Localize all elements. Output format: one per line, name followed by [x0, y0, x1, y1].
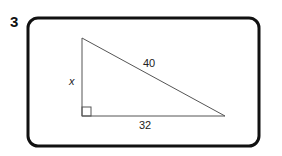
right-angle-marker — [82, 107, 91, 116]
diagram-canvas — [0, 0, 282, 156]
label-vertical-leg: x — [69, 75, 75, 87]
label-hypotenuse: 40 — [143, 57, 155, 69]
label-horizontal-leg: 32 — [139, 119, 151, 131]
right-triangle — [82, 38, 225, 116]
